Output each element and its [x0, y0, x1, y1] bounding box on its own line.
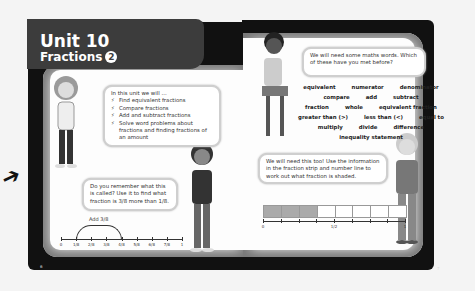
tick	[334, 219, 335, 223]
tick-label: 7/8	[163, 242, 171, 247]
tick	[106, 237, 107, 241]
tick	[152, 237, 153, 241]
girl-character	[48, 74, 84, 174]
word-row: equivalentnumeratordenominator	[296, 82, 446, 92]
tick	[352, 219, 353, 223]
lightning-icon: ⚡	[111, 97, 115, 104]
strip-cell	[353, 206, 371, 217]
maths-words-bubble: We will need some maths words. Which of …	[302, 47, 426, 77]
girl-on-stool-character	[258, 30, 294, 142]
tick-label: 6/8	[148, 242, 156, 247]
fraction-strip-bubble: We will need this too! Use the informati…	[258, 153, 388, 184]
arrow-icon: ➔	[0, 163, 24, 191]
tick	[370, 219, 371, 223]
intro-item: ⚡Compare fractions	[111, 105, 213, 112]
tick	[61, 237, 62, 241]
tick-label: 0	[57, 242, 65, 247]
word-bank: equivalentnumeratordenominator comparead…	[296, 82, 446, 142]
fraction-strip	[263, 205, 407, 218]
tick-label: 2/8	[87, 242, 95, 247]
strip-cell	[264, 206, 282, 217]
strip-cell	[336, 206, 354, 217]
tick	[91, 237, 92, 241]
arc-label: Add 3/8	[89, 216, 108, 222]
intro-lead: In this unit we will ...	[111, 90, 167, 96]
strip-cell	[318, 206, 336, 217]
tick	[405, 219, 406, 223]
lightning-icon: ⚡	[111, 112, 115, 119]
strip-cell	[371, 206, 389, 217]
number-line-question-bubble: Do you remember what this is called? Use…	[82, 178, 178, 211]
tick	[299, 219, 300, 223]
word-row: greater than (>)less than (<)equal to	[296, 112, 446, 122]
tick	[263, 219, 264, 223]
strip-label: 1/2	[330, 224, 338, 229]
tick	[122, 237, 123, 241]
word-row: fractionwholeequivalent fraction	[296, 102, 446, 112]
tick	[182, 237, 183, 241]
unit-intro-bubble: In this unit we will ... ⚡Find equivalen…	[103, 85, 221, 147]
strip-cell	[300, 206, 318, 217]
tick	[137, 237, 138, 241]
page-number-left: 6	[40, 264, 43, 269]
page-number-right: 7	[437, 266, 440, 271]
unit-title: Unit 10	[40, 33, 109, 50]
number-line-arc	[76, 225, 122, 240]
strip-cell	[282, 206, 300, 217]
lightning-icon: ⚡	[111, 120, 115, 127]
tick	[281, 219, 282, 223]
lightning-icon: ⚡	[111, 105, 115, 112]
tick	[316, 219, 317, 223]
intro-item: ⚡Add and subtract fractions	[111, 112, 213, 119]
topic-badge: 2	[105, 51, 117, 63]
strip-label: 0	[259, 224, 267, 229]
tick-label: 1/8	[72, 242, 80, 247]
strip-label: 1	[401, 224, 409, 229]
word-row: multiplydividedifference	[296, 122, 446, 132]
tick	[76, 237, 77, 241]
tick-label: 4/8	[118, 242, 126, 247]
topic-label: Fractions	[40, 50, 102, 64]
tick	[387, 219, 388, 223]
strip-cell	[389, 206, 406, 217]
word-row: inequality statement	[296, 132, 446, 142]
unit-topic: Fractions2	[40, 51, 117, 63]
tick	[167, 237, 168, 241]
intro-item: ⚡Solve word problems about fractions and…	[111, 120, 213, 142]
tick-label: 3/8	[102, 242, 110, 247]
boy-arms-crossed-character	[390, 130, 424, 250]
boy-character	[184, 140, 220, 260]
word-row: compareaddsubtract	[296, 92, 446, 102]
tick-label: 5/8	[133, 242, 141, 247]
intro-item: ⚡Find equivalent fractions	[111, 97, 213, 104]
tick-label: 1	[178, 242, 186, 247]
